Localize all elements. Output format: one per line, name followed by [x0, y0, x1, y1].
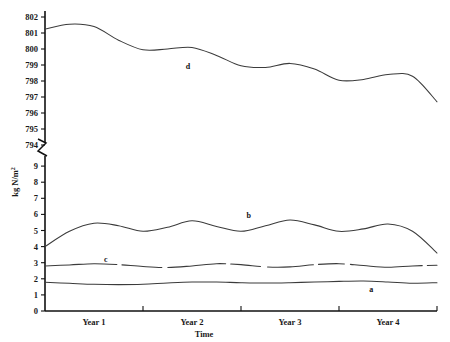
x-axis-tick-label: Year 1: [82, 317, 105, 327]
series-curve-c: [45, 264, 437, 268]
y-axis-upper-tick-label: 801: [25, 28, 38, 38]
series-curve-d: [45, 24, 437, 102]
y-axis-lower-tick-label: 5: [34, 226, 38, 236]
series-inline-labels: acbd: [104, 62, 373, 294]
series-label-a: a: [369, 285, 373, 294]
line-chart: 794795796797798799800801802 0123456789 Y…: [0, 0, 450, 342]
x-axis-tick-label: Year 4: [376, 317, 400, 327]
y-axis-upper-tick-label: 796: [25, 108, 38, 118]
y-axis-upper-ticks: 794795796797798799800801802: [25, 12, 45, 150]
y-axis-lower-tick-label: 9: [34, 161, 38, 171]
chart-container: 794795796797798799800801802 0123456789 Y…: [0, 0, 450, 342]
y-axis-lower-tick-label: 1: [34, 290, 38, 300]
y-axis-upper-tick-label: 802: [25, 12, 38, 22]
y-axis-lower-tick-label: 4: [34, 242, 39, 252]
series-curve-a: [45, 281, 437, 285]
y-axis-upper-tick-label: 794: [25, 140, 39, 150]
series-curve-b: [45, 220, 437, 253]
y-axis-upper-tick-label: 795: [25, 124, 38, 134]
y-axis-lower-tick-label: 8: [34, 177, 38, 187]
y-axis-lower-tick-label: 6: [34, 209, 38, 219]
series-label-c: c: [104, 255, 108, 264]
x-axis-title: Time: [195, 329, 214, 339]
series-label-d: d: [186, 62, 191, 71]
x-axis-tick-label: Year 2: [180, 317, 203, 327]
y-axis-upper-tick-label: 798: [25, 76, 38, 86]
y-axis-upper-tick-label: 797: [25, 92, 39, 102]
y-axis-lower-ticks: 0123456789: [34, 161, 45, 316]
data-series-curves: [45, 24, 437, 285]
axis-lines: [45, 11, 437, 311]
y-axis-upper-tick-label: 799: [25, 60, 38, 70]
x-axis-tick-label: Year 3: [278, 317, 301, 327]
y-axis-lower-tick-label: 7: [34, 193, 39, 203]
y-axis-upper-tick-label: 800: [25, 44, 38, 54]
y-axis-lower-tick-label: 2: [34, 274, 38, 284]
x-axis-tick-labels: Year 1Year 2Year 3Year 4: [82, 317, 400, 327]
series-label-b: b: [247, 211, 252, 220]
axis-titles: Timekg N/m2: [10, 167, 214, 339]
y-axis-title: kg N/m2: [10, 167, 20, 197]
y-axis-lower-tick-label: 0: [34, 306, 38, 316]
y-axis-lower-tick-label: 3: [34, 258, 38, 268]
